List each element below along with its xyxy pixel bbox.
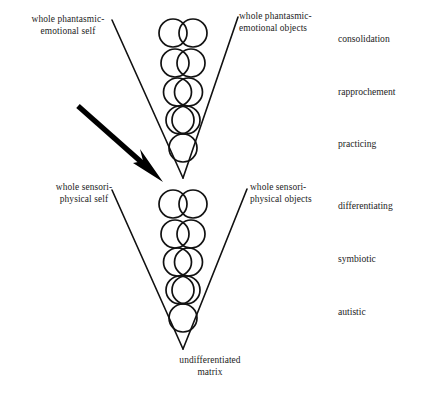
circle-fused-lower-5 bbox=[169, 304, 197, 332]
circle-self-lower-4 bbox=[166, 276, 194, 304]
stage-label-consolidation: consolidation bbox=[338, 33, 390, 45]
stage-label-rapprochement: rapprochement bbox=[338, 86, 396, 98]
circle-object-upper-1 bbox=[179, 19, 207, 47]
label-whole-phantasmic-emotional-self: whole phantasmic- emotional self bbox=[14, 14, 122, 37]
circle-self-lower-2 bbox=[161, 220, 189, 248]
stage-label-practicing: practicing bbox=[338, 138, 376, 150]
lower-cone-left-line bbox=[112, 190, 183, 349]
pointer-arrow-shaft bbox=[78, 106, 148, 168]
circle-object-upper-2 bbox=[177, 49, 205, 77]
lower-cone-right-line bbox=[183, 189, 247, 349]
circle-object-upper-4 bbox=[172, 106, 200, 134]
circle-object-lower-1 bbox=[179, 190, 207, 218]
circle-self-upper-2 bbox=[161, 49, 189, 77]
circle-object-lower-4 bbox=[172, 276, 200, 304]
lower-cone-lines bbox=[112, 189, 247, 349]
upper-cone-left-line bbox=[112, 20, 183, 178]
stage-label-autistic: autistic bbox=[338, 306, 366, 318]
stage-label-differentiating: differentiating bbox=[338, 200, 393, 212]
label-whole-phantasmic-emotional-objects: whole phantasmic- emotional objects bbox=[239, 11, 367, 34]
label-whole-sensori-physical-self: whole sensori- physical self bbox=[32, 182, 136, 205]
pointer-arrow-head bbox=[133, 149, 163, 182]
stage-label-symbiotic: symbiotic bbox=[338, 253, 376, 265]
circle-self-upper-4 bbox=[166, 106, 194, 134]
pointer-arrow bbox=[78, 106, 163, 182]
circle-object-lower-2 bbox=[177, 220, 205, 248]
label-undifferentiated-matrix: undifferentiated matrix bbox=[140, 355, 280, 378]
diagram-root: whole phantasmic- emotional self whole p… bbox=[0, 0, 423, 398]
